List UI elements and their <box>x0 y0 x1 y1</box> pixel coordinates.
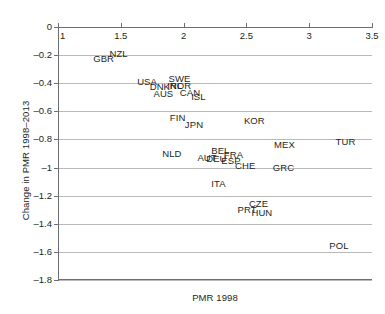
y-tick-mark <box>54 55 59 56</box>
data-point-label: ISL <box>191 92 206 102</box>
gridline <box>58 252 372 253</box>
gridline <box>58 139 372 140</box>
x-tick-label: 3 <box>289 31 329 41</box>
gridline <box>58 196 372 197</box>
y-tick-mark <box>54 196 59 197</box>
gridline <box>58 111 372 112</box>
y-tick-label: 0 <box>12 22 52 32</box>
plot-area: 0–0.2–0.4–0.6–0.8–1–1.2–1.4–1.6–1.8 11.5… <box>58 27 372 280</box>
y-tick-mark <box>54 168 59 169</box>
data-point-label: GRC <box>273 163 294 173</box>
y-tick-label: –0.6 <box>12 106 52 116</box>
gridline <box>58 280 372 281</box>
x-tick-mark <box>184 23 185 28</box>
data-point-label: CHE <box>235 161 255 171</box>
data-point-label: NLD <box>162 149 181 159</box>
y-tick-mark <box>54 280 59 281</box>
x-tick-mark <box>309 23 310 28</box>
data-point-label: ITA <box>211 179 225 189</box>
y-tick-mark <box>54 111 59 112</box>
data-point-label: HUN <box>251 208 272 218</box>
data-point-label: TUR <box>336 137 356 147</box>
y-tick-mark <box>54 83 59 84</box>
gridline <box>58 83 372 84</box>
gridline <box>58 224 372 225</box>
x-tick-mark <box>372 23 373 28</box>
y-tick-label: –1.4 <box>12 219 52 229</box>
data-point-label: POL <box>329 241 348 251</box>
data-point-label: MEX <box>274 140 295 150</box>
data-point-label: FIN <box>170 113 186 123</box>
y-tick-mark <box>54 252 59 253</box>
x-tick-label: 2 <box>164 31 204 41</box>
data-point-label: NZL <box>109 49 127 59</box>
x-tick-label: 3.5 <box>352 31 385 41</box>
top-axis-line <box>58 27 372 28</box>
y-tick-label: –0.8 <box>12 134 52 144</box>
y-tick-label: –0.4 <box>12 78 52 88</box>
y-tick-label: –1.8 <box>12 275 52 285</box>
data-point-label: JPN <box>185 120 203 130</box>
y-tick-mark <box>54 139 59 140</box>
x-tick-label: 2.5 <box>226 31 266 41</box>
x-tick-mark <box>121 23 122 28</box>
gridline <box>58 168 372 169</box>
x-axis-title: PMR 1998 <box>58 292 372 303</box>
y-tick-label: –1.2 <box>12 191 52 201</box>
x-tick-mark <box>58 23 59 28</box>
y-axis-line <box>58 27 59 280</box>
scatter-plot-figure: Change in PMR 1998–2013 PMR 1998 0–0.2–0… <box>0 0 385 314</box>
y-tick-label: –0.2 <box>12 50 52 60</box>
data-point-label: KOR <box>244 116 265 126</box>
x-tick-label: 1.5 <box>101 31 141 41</box>
y-tick-mark <box>54 224 59 225</box>
x-tick-label: 1 <box>60 31 80 41</box>
y-tick-label: –1.6 <box>12 247 52 257</box>
y-tick-label: –1 <box>12 163 52 173</box>
x-tick-mark <box>246 23 247 28</box>
